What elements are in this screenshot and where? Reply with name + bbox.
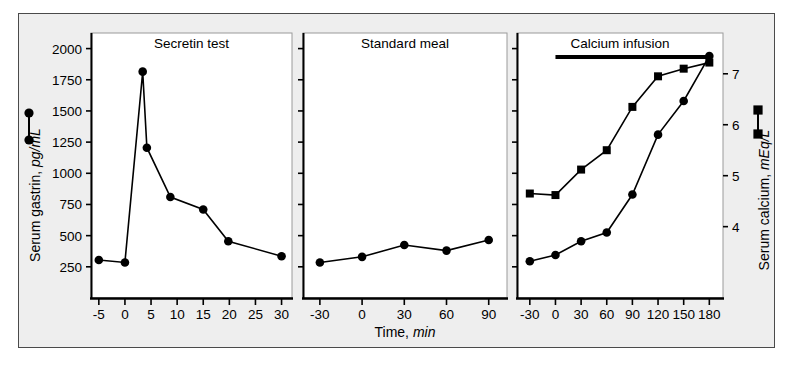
data-point-circle	[484, 236, 493, 245]
data-point-circle	[199, 205, 208, 214]
data-point-circle	[224, 237, 233, 246]
data-point-circle	[628, 190, 637, 199]
data-point-circle	[526, 257, 535, 266]
right-axis-title-plain: Serum calcium,	[756, 170, 772, 270]
y-tick-label: 1750	[52, 73, 82, 88]
x-tick-label: 30	[397, 307, 412, 322]
x-tick-label: 90	[625, 307, 640, 322]
right-axis-title-text: Serum calcium, mEq/L	[756, 130, 772, 271]
figure-root: -5051015202530Secretin test-300306090Sta…	[0, 0, 795, 371]
y-tick-label: 250	[59, 260, 82, 275]
y-tick-label: 2000	[52, 42, 82, 57]
x-tick-label: 0	[358, 307, 366, 322]
x-axis-title-plain: Time,	[375, 324, 413, 340]
x-tick-label: 30	[274, 307, 289, 322]
x-tick-label: -30	[520, 307, 540, 322]
panel-standard-meal: -300306090Standard meal	[298, 33, 508, 322]
y-tick-label: 1500	[52, 104, 82, 119]
data-point-circle	[577, 237, 586, 246]
x-tick-label: 180	[698, 307, 721, 322]
data-point-square	[680, 65, 688, 73]
x-tick-label: 60	[439, 307, 454, 322]
x-tick-label: 30	[574, 307, 589, 322]
right-axis-title: Serum calcium, mEq/L	[756, 130, 772, 271]
data-point-circle	[602, 228, 611, 237]
y-tick-label: 750	[59, 197, 82, 212]
data-point-circle	[442, 246, 451, 255]
x-tick-label: 25	[248, 307, 263, 322]
square-marker	[753, 129, 762, 138]
data-point-square	[628, 103, 636, 111]
x-axis-title: Time, min	[375, 324, 436, 340]
legend-gastrin	[24, 108, 33, 144]
circle-marker	[24, 135, 33, 144]
data-point-circle	[551, 251, 560, 260]
chart-canvas: -5051015202530Secretin test-300306090Sta…	[0, 0, 795, 371]
data-point-square	[705, 59, 713, 67]
data-point-circle	[679, 97, 688, 106]
y-tick-label: 500	[59, 229, 82, 244]
data-point-square	[551, 191, 559, 199]
panel-secretin-test: -5051015202530Secretin test	[86, 33, 293, 322]
panel-background	[303, 33, 507, 298]
data-point-circle	[121, 258, 130, 267]
left-axis-title-plain: Serum gastrin,	[27, 167, 43, 262]
panel-title: Secretin test	[154, 36, 229, 51]
y2-tick-label: 6	[732, 118, 740, 133]
data-point-square	[603, 146, 611, 154]
y2-tick-label: 4	[732, 220, 740, 235]
x-tick-label: 0	[552, 307, 560, 322]
panel-calcium-infusion: -300306090120150180Calcium infusion	[512, 33, 724, 322]
data-point-circle	[400, 241, 409, 250]
panel-background	[91, 33, 292, 298]
data-point-square	[526, 190, 534, 198]
data-point-circle	[277, 252, 286, 261]
data-point-circle	[316, 258, 325, 267]
x-tick-label: 10	[170, 307, 185, 322]
panel-background	[517, 33, 723, 298]
circle-marker	[24, 108, 33, 117]
x-axis-title-italic: min	[413, 324, 436, 340]
panel-title: Calcium infusion	[570, 36, 669, 51]
data-point-circle	[654, 130, 663, 139]
x-tick-label: 60	[599, 307, 614, 322]
data-point-square	[577, 166, 585, 174]
x-tick-label: 0	[121, 307, 129, 322]
x-tick-label: 90	[481, 307, 496, 322]
square-marker	[753, 105, 762, 114]
legend-calcium	[753, 105, 762, 138]
data-point-circle	[95, 256, 104, 265]
y-tick-label: 1000	[52, 166, 82, 181]
left-axis-title-text: Serum gastrin, pg/mL	[27, 128, 43, 262]
panel-title: Standard meal	[361, 36, 449, 51]
x-tick-label: 20	[222, 307, 237, 322]
data-point-circle	[143, 143, 152, 152]
x-tick-label: 150	[672, 307, 695, 322]
x-tick-label: -30	[310, 307, 330, 322]
data-point-circle	[166, 193, 175, 202]
y-tick-label: 1250	[52, 135, 82, 150]
data-point-circle	[358, 253, 367, 262]
y2-tick-label: 5	[732, 169, 740, 184]
y2-tick-label: 7	[732, 67, 740, 82]
x-tick-label: -5	[93, 307, 105, 322]
data-point-square	[654, 72, 662, 80]
x-tick-label: 120	[647, 307, 670, 322]
x-tick-label: 15	[196, 307, 211, 322]
data-point-circle	[138, 67, 147, 76]
left-axis-title: Serum gastrin, pg/mL	[27, 128, 43, 262]
x-tick-label: 5	[147, 307, 155, 322]
